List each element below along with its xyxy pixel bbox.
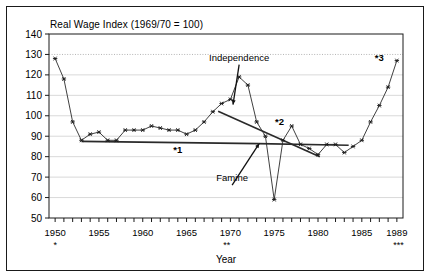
x-axis-ticks: 195019551960196519701975198019851989 (45, 218, 408, 238)
y-tick-label: 120 (25, 69, 42, 80)
x-tick-label: 1955 (88, 227, 109, 238)
y-tick-label: 140 (25, 29, 42, 40)
annotation-marker-1: *1 (173, 144, 183, 155)
x-tick-label: 1989 (386, 227, 407, 238)
y-tick-label: 50 (31, 213, 43, 224)
y-axis-ticks: 5060708090100110120130140 (25, 29, 49, 224)
real-wage-index-line-chart: 5060708090100110120130140 19501955196019… (7, 7, 425, 272)
figure-container: Real Wage Index (1969/70 = 100) 50607080… (6, 6, 424, 271)
x-axis-title-group: Year (216, 254, 237, 265)
x-tick-label: 1950 (45, 227, 66, 238)
x-axis-title: Year (216, 254, 237, 265)
y-tick-label: 130 (25, 49, 42, 60)
y-tick-label: 110 (26, 90, 42, 101)
footnote-markers: ****** (53, 240, 404, 250)
x-tick-label: 1970 (220, 227, 241, 238)
x-tick-label: 1960 (132, 227, 153, 238)
footnote-1: * (53, 240, 57, 250)
y-tick-label: 70 (31, 172, 43, 183)
annotation-independence: Independence (209, 52, 269, 63)
footnote-3: *** (393, 240, 404, 250)
annotation-famine: Famine (216, 172, 248, 183)
footnote-2: ** (223, 240, 231, 250)
y-tick-label: 80 (31, 151, 43, 162)
x-tick-label: 1975 (264, 227, 285, 238)
annotation-marker-3: *3 (375, 52, 384, 63)
y-tick-label: 90 (31, 131, 43, 142)
x-tick-label: 1965 (176, 227, 197, 238)
x-tick-label: 1985 (351, 227, 372, 238)
annotation-marker-2: *2 (275, 116, 284, 127)
y-tick-label: 60 (31, 192, 43, 203)
y-tick-label: 100 (25, 110, 42, 121)
x-tick-label: 1980 (307, 227, 328, 238)
